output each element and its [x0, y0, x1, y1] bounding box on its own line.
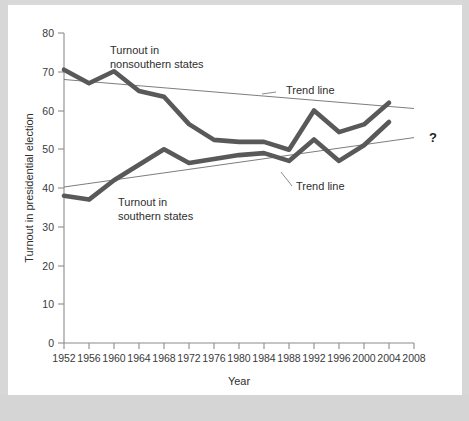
- y-axis-title: Turnout in presidential election: [23, 113, 35, 262]
- southern-label-line2: southern states: [118, 210, 194, 222]
- y-axis-ticks: [58, 33, 64, 343]
- y-axis-tick-labels: 80 70 60 50 40 30 20 10 0: [42, 27, 54, 349]
- nonsouthern-label-line2: nonsouthern states: [110, 58, 204, 70]
- figure-frame: 80 70 60 50 40 30 20 10 0: [0, 0, 469, 421]
- trend-label-lower-leader: [281, 172, 292, 186]
- ytick-80: 80: [42, 27, 54, 39]
- xtick-2000: 2000: [352, 352, 376, 364]
- trend-line-nonsouthern: [64, 80, 414, 109]
- southern-series-label: Turnout in southern states: [118, 196, 194, 222]
- x-axis-tick-labels: 1952 1956 1960 1964 1968 1972 1976 1980 …: [52, 352, 426, 364]
- ytick-60: 60: [42, 105, 54, 117]
- xtick-1976: 1976: [202, 352, 226, 364]
- x-axis-ticks: [64, 343, 414, 349]
- future-question-mark: ?: [429, 130, 437, 145]
- southern-label-line1: Turnout in: [118, 196, 167, 208]
- nonsouthern-series-label: Turnout in nonsouthern states: [110, 44, 204, 70]
- nonsouthern-label-line1: Turnout in: [110, 44, 159, 56]
- ytick-50: 50: [42, 143, 54, 155]
- ytick-30: 30: [42, 221, 54, 233]
- trend-label-upper-leader: [262, 92, 276, 94]
- series-line-nonsouthern: [64, 70, 389, 150]
- ytick-10: 10: [42, 298, 54, 310]
- xtick-1968: 1968: [152, 352, 176, 364]
- ytick-20: 20: [42, 260, 54, 272]
- xtick-2004: 2004: [377, 352, 401, 364]
- xtick-1988: 1988: [277, 352, 301, 364]
- xtick-1952: 1952: [52, 352, 76, 364]
- trend-label-upper: Trend line: [286, 84, 335, 96]
- ytick-40: 40: [42, 182, 54, 194]
- xtick-1996: 1996: [327, 352, 351, 364]
- ytick-0: 0: [48, 337, 54, 349]
- x-axis-title: Year: [228, 375, 251, 387]
- xtick-1972: 1972: [177, 352, 201, 364]
- turnout-line-chart: 80 70 60 50 40 30 20 10 0: [0, 0, 469, 421]
- xtick-1964: 1964: [127, 352, 151, 364]
- xtick-1960: 1960: [102, 352, 126, 364]
- ytick-70: 70: [42, 66, 54, 78]
- xtick-1984: 1984: [252, 352, 276, 364]
- xtick-1956: 1956: [77, 352, 101, 364]
- xtick-1980: 1980: [227, 352, 251, 364]
- xtick-1992: 1992: [302, 352, 326, 364]
- trend-label-lower: Trend line: [296, 180, 345, 192]
- xtick-2008: 2008: [402, 352, 426, 364]
